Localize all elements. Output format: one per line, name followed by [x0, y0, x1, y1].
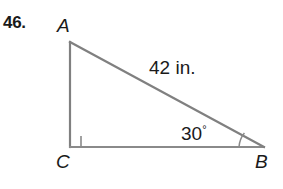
right-angle-square-icon [70, 136, 81, 147]
triangle-figure [0, 0, 283, 189]
side-length-label: 42 in. [149, 58, 195, 77]
vertex-label-a: A [57, 16, 70, 35]
vertex-label-b: B [255, 152, 268, 171]
angle-measure-value: 30 [181, 123, 202, 144]
degree-symbol-icon: ° [202, 123, 206, 135]
angle-measure-label: 30° [181, 124, 207, 143]
problem-figure-page: 46. A C B 42 in. 30° [0, 0, 283, 189]
vertex-label-c: C [56, 152, 70, 171]
